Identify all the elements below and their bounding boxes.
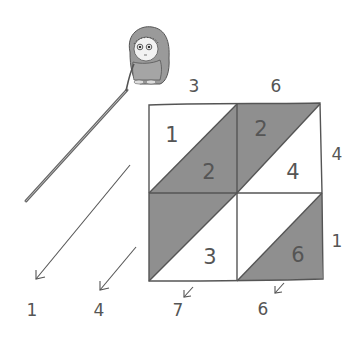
arrow-diagonal-long — [36, 165, 130, 279]
cell-0-1-tens: 2 — [254, 119, 267, 140]
cell-0-0-ones: 2 — [202, 162, 215, 183]
arrow-7 — [184, 287, 193, 297]
top-digit-tens: 3 — [189, 78, 200, 95]
cell-1-0-ones: 3 — [203, 247, 216, 268]
cell-0-1-ones: 4 — [286, 162, 299, 183]
result-digit-4: 6 — [258, 301, 269, 318]
result-digit-2: 4 — [94, 302, 105, 319]
right-digit-ones: 1 — [332, 233, 343, 250]
pointer-stick — [26, 90, 127, 201]
result-digit-1: 1 — [27, 302, 38, 319]
top-digit-ones: 6 — [271, 78, 282, 95]
arrow-6 — [275, 283, 284, 293]
right-digit-tens: 4 — [332, 146, 343, 163]
cell-0-0-tens: 1 — [165, 125, 178, 146]
arrow-diagonal-short — [100, 247, 136, 290]
cell-1-1-ones: 6 — [291, 245, 304, 266]
result-digit-3: 7 — [173, 302, 184, 319]
diagram-svg — [0, 0, 362, 339]
girl-character-icon — [126, 27, 169, 91]
lattice-diagram: 3 6 4 1 1 2 2 4 3 6 1 4 7 6 — [0, 0, 362, 339]
